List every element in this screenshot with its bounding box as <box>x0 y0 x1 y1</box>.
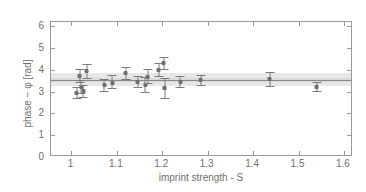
data-point <box>82 64 91 78</box>
data-point <box>159 57 168 70</box>
error-bar-cap-top <box>79 85 88 86</box>
data-point-marker <box>102 83 106 87</box>
data-point <box>108 75 117 89</box>
y-tick-label-0: 0 <box>30 151 44 162</box>
error-bar-cap-bottom <box>100 91 109 92</box>
error-bar-cap-bottom <box>265 86 274 87</box>
error-bar-cap-bottom <box>121 79 130 80</box>
x-tick-label-1.4: 1.4 <box>245 158 259 169</box>
error-bar-cap-top <box>121 67 130 68</box>
error-bar-cap-top <box>176 76 185 77</box>
data-point-marker <box>110 81 114 85</box>
data-point-marker <box>78 74 82 78</box>
data-point <box>79 85 88 98</box>
error-bar-cap-bottom <box>176 87 185 88</box>
data-point <box>312 82 321 92</box>
y-tick-right-5 <box>347 48 351 49</box>
y-tick-right-4 <box>347 70 351 71</box>
y-tick-4 <box>51 70 55 71</box>
data-point-marker <box>268 77 272 81</box>
x-tick-top-1.5 <box>299 22 300 26</box>
y-tick-right-3 <box>347 92 351 93</box>
x-tick-top-1.3 <box>208 22 209 26</box>
error-bar-cap-top <box>82 64 91 65</box>
x-tick-1.1 <box>117 151 118 155</box>
y-tick-right-2 <box>347 113 351 114</box>
x-tick-top-1.4 <box>253 22 254 26</box>
y-tick-right-1 <box>347 135 351 136</box>
data-point <box>176 76 185 88</box>
data-point-marker <box>162 61 166 65</box>
error-bar-cap-bottom <box>72 98 81 99</box>
data-point <box>196 75 205 85</box>
x-tick-label-1.5: 1.5 <box>291 158 305 169</box>
y-tick-label-2: 2 <box>30 107 44 118</box>
error-bar-cap-bottom <box>160 98 169 99</box>
x-tick-top-1 <box>71 22 72 26</box>
x-tick-label-1.3: 1.3 <box>200 158 214 169</box>
y-tick-label-4: 4 <box>30 63 44 74</box>
chart-figure: phase − φ [rad] imprint strength - S 11.… <box>0 0 366 192</box>
error-bar-cap-top <box>196 75 205 76</box>
data-point <box>143 69 152 84</box>
data-point-marker <box>136 80 140 84</box>
x-tick-1 <box>71 151 72 155</box>
data-point <box>121 67 130 80</box>
y-tick-1 <box>51 135 55 136</box>
error-bar-cap-top <box>159 57 168 58</box>
data-point-marker <box>315 85 319 89</box>
x-axis-title: imprint strength - S <box>50 172 352 183</box>
error-bar-cap-bottom <box>141 92 150 93</box>
y-tick-right-6 <box>347 26 351 27</box>
error-bar-cap-bottom <box>196 85 205 86</box>
y-tick-3 <box>51 92 55 93</box>
x-tick-1.5 <box>299 151 300 155</box>
x-tick-top-1.1 <box>117 22 118 26</box>
error-bar-cap-top <box>143 69 152 70</box>
x-tick-1.6 <box>344 151 345 155</box>
error-bar-cap-bottom <box>82 78 91 79</box>
error-bar-cap-top <box>312 82 321 83</box>
error-bar-cap-bottom <box>159 69 168 70</box>
error-bar-cap-bottom <box>312 91 321 92</box>
data-point-marker <box>178 80 182 84</box>
error-bar-cap-bottom <box>143 83 152 84</box>
y-tick-label-1: 1 <box>30 129 44 140</box>
x-tick-1.4 <box>253 151 254 155</box>
y-tick-label-6: 6 <box>30 20 44 31</box>
data-point-marker <box>85 69 89 73</box>
data-point-marker <box>146 75 150 79</box>
plot-area <box>50 21 352 156</box>
error-bar-cap-bottom <box>79 97 88 98</box>
x-tick-1.3 <box>208 151 209 155</box>
data-point-marker <box>199 78 203 82</box>
x-tick-1.2 <box>162 151 163 155</box>
data-point <box>160 78 169 100</box>
y-tick-2 <box>51 113 55 114</box>
error-bar-cap-top <box>108 75 117 76</box>
error-bar-cap-top <box>265 72 274 73</box>
x-tick-top-1.2 <box>162 22 163 26</box>
data-point <box>265 72 274 87</box>
data-point-marker <box>163 86 167 90</box>
y-tick-5 <box>51 48 55 49</box>
x-tick-label-1.6: 1.6 <box>336 158 350 169</box>
y-tick-6 <box>51 26 55 27</box>
y-tick-label-3: 3 <box>30 85 44 96</box>
error-bar-cap-top <box>77 80 86 81</box>
error-bar-cap-bottom <box>108 88 117 89</box>
x-tick-top-1.6 <box>344 22 345 26</box>
data-point-marker <box>124 71 128 75</box>
data-point-marker <box>81 89 85 93</box>
x-tick-label-1: 1 <box>68 158 74 169</box>
x-tick-label-1.2: 1.2 <box>154 158 168 169</box>
error-bar-cap-top <box>160 78 169 79</box>
x-tick-label-1.1: 1.1 <box>109 158 123 169</box>
y-tick-label-5: 5 <box>30 42 44 53</box>
